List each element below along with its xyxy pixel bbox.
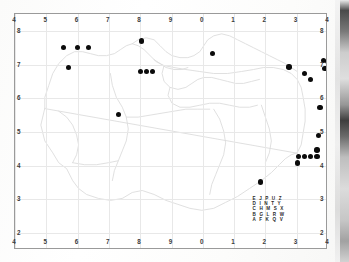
data-point [66, 65, 71, 70]
gridline-vertical [297, 14, 298, 248]
data-point [86, 45, 91, 50]
data-point [286, 64, 291, 69]
y-axis-tick-label-left: 5 [17, 128, 21, 135]
data-point [116, 112, 121, 117]
gridline-horizontal [15, 132, 326, 133]
gridline-vertical [203, 14, 204, 248]
y-axis-tick-label-right: 2 [320, 229, 324, 236]
data-point [144, 69, 149, 74]
gridline-horizontal [15, 166, 326, 167]
gridline-horizontal [15, 98, 326, 99]
y-axis-tick-label-right: 7 [320, 60, 324, 67]
y-axis-tick-label-left: 4 [17, 161, 21, 168]
data-point [302, 154, 307, 159]
figure-page: E J P U ZD I N T YC H M S XB G L R WA F … [0, 0, 349, 262]
y-axis-tick-label-left: 7 [17, 60, 21, 67]
y-axis-tick-label-right: 5 [320, 128, 324, 135]
data-point [325, 59, 326, 64]
x-axis-tick-label-bottom: 8 [137, 238, 141, 245]
x-axis-tick-label-top: 4 [325, 16, 329, 23]
x-axis-tick-label-bottom: 4 [325, 238, 329, 245]
adjacent-page-strip [340, 0, 349, 262]
x-axis-tick-label-top: 4 [12, 16, 16, 23]
x-axis-tick-label-top: 5 [43, 16, 47, 23]
y-axis-tick-label-right: 8 [320, 26, 324, 33]
polybius-letter-grid: E J P U ZD I N T YC H M S XB G L R WA F … [253, 196, 286, 222]
letter-grid-row: C H M S X [253, 206, 286, 211]
data-point [139, 38, 144, 43]
data-point [75, 45, 80, 50]
gridline-vertical [109, 14, 110, 248]
data-point [314, 154, 319, 159]
data-point [210, 51, 215, 56]
gridline-vertical [234, 14, 235, 248]
data-point [295, 160, 300, 165]
gridline-vertical [46, 14, 47, 248]
x-axis-tick-label-bottom: 4 [12, 238, 16, 245]
data-point [296, 154, 301, 159]
data-point [308, 77, 313, 82]
x-axis-tick-label-bottom: 3 [294, 238, 298, 245]
gridline-horizontal [15, 65, 326, 66]
y-axis-tick-label-left: 3 [17, 195, 21, 202]
y-axis-tick-label-left: 8 [17, 26, 21, 33]
x-axis-tick-label-top: 8 [137, 16, 141, 23]
gridline-horizontal [15, 31, 326, 32]
gridline-vertical [172, 14, 173, 248]
x-axis-tick-label-bottom: 5 [43, 238, 47, 245]
data-point [138, 69, 143, 74]
x-axis-tick-label-bottom: 7 [106, 238, 110, 245]
y-axis-tick-label-right: 3 [320, 195, 324, 202]
data-point [308, 154, 313, 159]
x-axis-tick-label-top: 3 [294, 16, 298, 23]
x-axis-tick-label-top: 2 [263, 16, 267, 23]
y-axis-tick-label-right: 4 [320, 161, 324, 168]
y-axis-tick-label-right: 6 [320, 94, 324, 101]
data-point [61, 45, 66, 50]
x-axis-tick-label-bottom: 0 [200, 238, 204, 245]
x-axis-tick-label-top: 6 [75, 16, 79, 23]
letter-grid-row: A F K Q V [253, 217, 286, 222]
x-axis-tick-label-top: 1 [231, 16, 235, 23]
gridline-vertical [15, 14, 16, 248]
data-point [258, 179, 263, 184]
x-axis-tick-label-top: 9 [169, 16, 173, 23]
gridline-horizontal [15, 233, 326, 234]
data-point [314, 147, 319, 152]
y-axis-tick-label-left: 2 [17, 229, 21, 236]
x-axis-tick-label-top: 7 [106, 16, 110, 23]
x-axis-tick-label-top: 0 [200, 16, 204, 23]
gridline-vertical [140, 14, 141, 248]
data-point [150, 69, 155, 74]
x-axis-tick-label-bottom: 2 [263, 238, 267, 245]
data-point [317, 105, 322, 110]
y-axis-tick-label-left: 6 [17, 94, 21, 101]
x-axis-tick-label-bottom: 9 [169, 238, 173, 245]
data-point [302, 71, 307, 76]
x-axis-tick-label-bottom: 1 [231, 238, 235, 245]
x-axis-tick-label-bottom: 6 [75, 238, 79, 245]
